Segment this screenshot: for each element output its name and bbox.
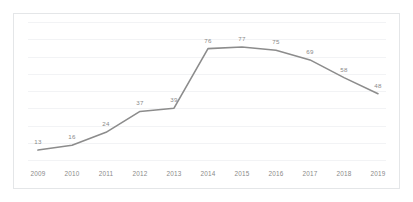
x-tick-label: 2016 [268,170,283,177]
x-tick-label: 2013 [166,170,181,177]
x-tick-label: 2012 [132,170,147,177]
x-tick-label: 2011 [99,170,114,177]
data-point-label: 75 [272,38,279,45]
data-point-label: 58 [340,66,347,73]
x-tick-label: 2010 [64,170,79,177]
data-point-label: 39 [170,96,177,103]
data-point-label: 16 [68,133,75,140]
data-point-label: 77 [238,35,245,42]
x-tick-label: 2015 [234,170,249,177]
data-point-label: 69 [306,48,313,55]
x-tick-label: 2019 [370,170,385,177]
series-polyline [38,47,378,150]
x-tick-label: 2017 [302,170,317,177]
data-point-label: 37 [136,99,143,106]
data-point-label: 76 [204,37,211,44]
x-tick-label: 2009 [30,170,45,177]
data-point-label: 48 [374,82,381,89]
data-point-label: 24 [102,120,109,127]
line-chart: 1316243739767775695848 20092010201120122… [0,0,413,202]
x-tick-label: 2018 [336,170,351,177]
x-tick-label: 2014 [200,170,215,177]
data-point-label: 13 [34,138,41,145]
